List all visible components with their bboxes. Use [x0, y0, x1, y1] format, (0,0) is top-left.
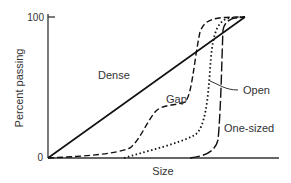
label-gap: Gap	[166, 93, 187, 105]
series-dense	[48, 17, 245, 158]
label-open: Open	[243, 84, 270, 96]
gradation-chart: 100 0 Percent passing Size Dense Gap Ope…	[0, 0, 291, 183]
y-axis-label: Percent passing	[13, 49, 25, 128]
label-dense: Dense	[98, 69, 130, 81]
y-tick-label-100: 100	[27, 12, 44, 23]
open-leader-line	[210, 81, 238, 90]
label-one-sized: One-sized	[224, 122, 274, 134]
y-tick-label-0: 0	[37, 152, 43, 163]
x-axis-label: Size	[152, 165, 173, 177]
series-one-sized	[190, 17, 245, 158]
series-open	[124, 17, 245, 158]
